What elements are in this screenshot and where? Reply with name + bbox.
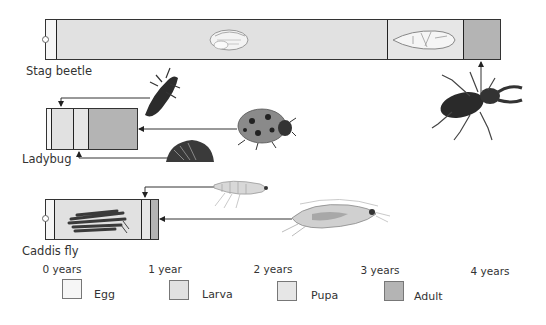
tick-1-year: 1 year bbox=[148, 263, 181, 275]
tick-0-years: 0 years bbox=[43, 263, 82, 275]
ladybug-larva-icon bbox=[61, 68, 180, 116]
ladybug-adult-icon bbox=[139, 109, 296, 150]
legend-swatch-egg bbox=[62, 279, 82, 299]
ladybug-pupa-icon bbox=[79, 140, 214, 162]
legend-swatch-pupa bbox=[277, 281, 297, 301]
legend-label-pupa: Pupa bbox=[311, 289, 338, 302]
tick-3-years: 3 years bbox=[361, 264, 400, 276]
tick-2-years: 2 years bbox=[254, 263, 293, 275]
illustrations-layer bbox=[0, 0, 546, 325]
legend-swatch-larva bbox=[169, 280, 189, 300]
legend-swatch-adult bbox=[384, 281, 404, 301]
tick-4-years: 4 years bbox=[471, 265, 510, 277]
legend-label-adult: Adult bbox=[414, 290, 443, 303]
stag-beetle-adult-icon bbox=[432, 62, 522, 140]
caddis-fly-adult-icon bbox=[160, 199, 390, 236]
legend-label-larva: Larva bbox=[202, 288, 233, 301]
caddis-fly-pupa-icon bbox=[145, 181, 268, 208]
legend-label-egg: Egg bbox=[94, 288, 115, 301]
